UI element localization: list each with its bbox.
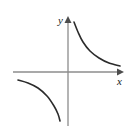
graph-canvas: y x bbox=[0, 0, 136, 132]
x-axis-label: x bbox=[116, 75, 122, 87]
y-axis-label: y bbox=[57, 14, 63, 26]
hyperbola-figure: y x bbox=[0, 0, 136, 132]
